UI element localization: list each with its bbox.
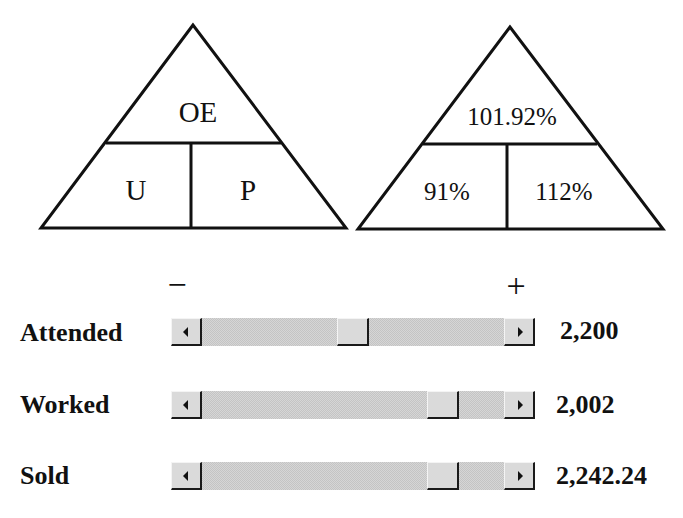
worked-label: Worked bbox=[20, 390, 110, 420]
attended-slider-thumb[interactable] bbox=[337, 318, 369, 346]
right-arrow-icon bbox=[518, 400, 523, 410]
value-bottom-right-p: 112% bbox=[535, 179, 592, 204]
sold-label: Sold bbox=[20, 461, 69, 491]
left-arrow-icon bbox=[183, 327, 188, 337]
attended-slider[interactable] bbox=[171, 318, 535, 346]
value-top-oe: 101.92% bbox=[467, 104, 557, 129]
attended-increase-button[interactable] bbox=[504, 318, 535, 346]
formula-top-oe: OE bbox=[179, 98, 218, 127]
left-arrow-icon bbox=[183, 471, 188, 481]
formula-bottom-left-u: U bbox=[126, 176, 147, 205]
worked-slider[interactable] bbox=[171, 391, 535, 419]
plus-sign: + bbox=[506, 269, 525, 303]
attended-decrease-button[interactable] bbox=[171, 318, 202, 346]
right-arrow-icon bbox=[518, 471, 523, 481]
worked-increase-button[interactable] bbox=[504, 391, 535, 419]
value-bottom-left-u: 91% bbox=[424, 179, 470, 204]
right-arrow-icon bbox=[518, 327, 523, 337]
sold-slider-thumb[interactable] bbox=[427, 462, 459, 490]
worked-slider-thumb[interactable] bbox=[427, 391, 459, 419]
sold-value: 2,242.24 bbox=[556, 461, 647, 491]
sold-decrease-button[interactable] bbox=[171, 462, 202, 490]
worked-decrease-button[interactable] bbox=[171, 391, 202, 419]
formula-bottom-right-p: P bbox=[240, 176, 256, 205]
minus-sign: − bbox=[167, 268, 186, 302]
sold-slider[interactable] bbox=[171, 462, 535, 490]
attended-value: 2,200 bbox=[560, 316, 619, 346]
attended-label: Attended bbox=[20, 318, 123, 348]
left-arrow-icon bbox=[183, 400, 188, 410]
worked-value: 2,002 bbox=[556, 390, 615, 420]
sold-increase-button[interactable] bbox=[504, 462, 535, 490]
